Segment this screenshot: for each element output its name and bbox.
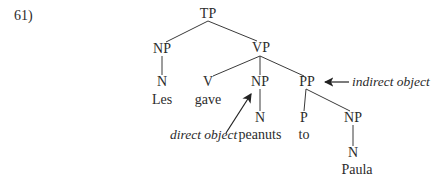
node-vp: VP: [252, 41, 270, 55]
word-peanuts: peanuts: [239, 128, 282, 142]
word-gave: gave: [195, 93, 221, 107]
node-tp: TP: [200, 7, 216, 21]
node-n-indirect: N: [348, 146, 358, 160]
node-pp: PP: [299, 75, 315, 89]
node-n-object: N: [255, 111, 265, 125]
node-n-subject: N: [157, 75, 167, 89]
node-np-subject: NP: [153, 42, 171, 56]
node-np-object: NP: [251, 75, 269, 89]
word-to: to: [299, 128, 310, 142]
indirect-object-label: indirect object: [352, 74, 430, 90]
direct-object-label: direct object: [170, 127, 237, 143]
node-p: P: [300, 111, 308, 125]
node-v: V: [203, 75, 213, 89]
word-paula: Paula: [341, 163, 372, 177]
word-les: Les: [152, 93, 172, 107]
node-np-indirect: NP: [344, 111, 362, 125]
